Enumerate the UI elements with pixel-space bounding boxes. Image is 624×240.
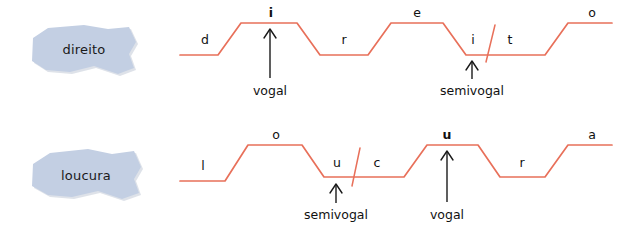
annotation-label-semivogal-loucura: semivogal xyxy=(304,207,368,222)
segment-label-o: o xyxy=(588,5,596,20)
blob-label-loucura: loucura xyxy=(61,168,111,183)
segment-label-t: t xyxy=(508,32,513,47)
row-direito: direito d i r e i t o vogal xyxy=(32,5,612,98)
annotation-arrow-vogal-loucura xyxy=(441,151,453,202)
segment-label-u-glide: u xyxy=(333,155,341,170)
annotation-arrow-vogal-direito xyxy=(264,29,276,78)
annotation-arrow-semivogal-direito xyxy=(466,61,478,79)
segment-label-e: e xyxy=(413,5,421,20)
segment-label-c: c xyxy=(374,155,381,170)
annotation-label-vogal-loucura: vogal xyxy=(430,207,464,222)
segment-label-u-stressed: u xyxy=(443,127,452,142)
annotation-arrow-semivogal-loucura xyxy=(330,184,342,203)
segment-label-i-stressed: i xyxy=(269,5,273,20)
blob-label-direito: direito xyxy=(63,42,106,57)
contour-direito xyxy=(180,23,612,55)
segment-label-a: a xyxy=(588,127,596,142)
segment-label-d: d xyxy=(201,32,209,47)
segment-label-i-glide: i xyxy=(471,32,474,47)
segment-label-l: l xyxy=(201,158,204,173)
sonority-diagram-svg: direito d i r e i t o vogal xyxy=(0,0,624,240)
annotation-label-semivogal-direito: semivogal xyxy=(440,83,504,98)
syllable-break-direito xyxy=(486,25,495,62)
contour-loucura xyxy=(180,145,612,181)
annotation-label-vogal-direito: vogal xyxy=(253,83,287,98)
syllable-break-loucura xyxy=(352,148,360,186)
segment-label-o: o xyxy=(272,127,280,142)
row-loucura: loucura l o u c u r a semivogal xyxy=(32,127,612,222)
segment-label-r: r xyxy=(519,155,525,170)
sonority-figure: direito d i r e i t o vogal xyxy=(0,0,624,240)
segment-label-r: r xyxy=(341,32,347,47)
